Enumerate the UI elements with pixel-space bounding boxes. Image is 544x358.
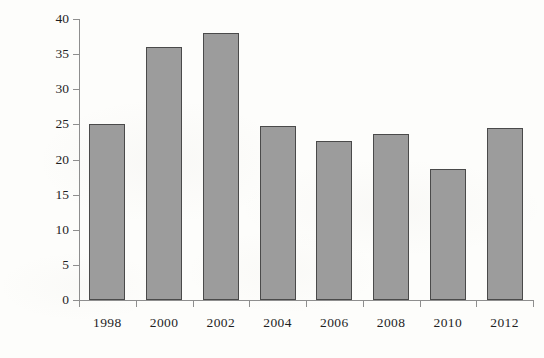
x-axis-label-2002: 2002 — [207, 315, 236, 331]
y-tick-label-40: 40 — [43, 11, 69, 27]
bar-2004 — [260, 126, 296, 300]
y-tick-label-10: 10 — [43, 222, 69, 238]
bar-2006 — [316, 141, 352, 300]
x-tick-2010 — [476, 301, 477, 307]
y-tick-label-30: 30 — [43, 81, 69, 97]
bar-1998 — [89, 124, 125, 300]
y-tick-label-25: 25 — [43, 116, 69, 132]
x-axis-label-2010: 2010 — [434, 315, 463, 331]
bar-2000 — [146, 47, 182, 300]
x-axis-label-2012: 2012 — [490, 315, 519, 331]
x-tick-1998 — [136, 301, 137, 307]
x-axis-label-1998: 1998 — [93, 315, 122, 331]
x-tick-2002 — [249, 301, 250, 307]
y-tick-label-35: 35 — [43, 46, 69, 62]
x-axis-label-2008: 2008 — [377, 315, 406, 331]
x-tick-origin — [79, 301, 80, 307]
x-tick-2000 — [193, 301, 194, 307]
y-tick-label-5: 5 — [43, 257, 69, 273]
x-axis-label-2004: 2004 — [263, 315, 292, 331]
bar-2012 — [487, 128, 523, 300]
x-tick-2004 — [306, 301, 307, 307]
x-tick-2012 — [533, 301, 534, 307]
y-tick-label-20: 20 — [43, 152, 69, 168]
bar-2010 — [430, 169, 466, 300]
x-axis-label-2006: 2006 — [320, 315, 349, 331]
x-axis-label-2000: 2000 — [150, 315, 179, 331]
plot-area — [79, 19, 533, 300]
x-tick-2008 — [420, 301, 421, 307]
bar-chart: number of participants 0510152025303540 … — [0, 0, 544, 358]
bar-2002 — [203, 33, 239, 300]
y-tick-label-0: 0 — [43, 292, 69, 308]
y-tick-label-15: 15 — [43, 187, 69, 203]
x-tick-2006 — [363, 301, 364, 307]
bar-2008 — [373, 134, 409, 300]
